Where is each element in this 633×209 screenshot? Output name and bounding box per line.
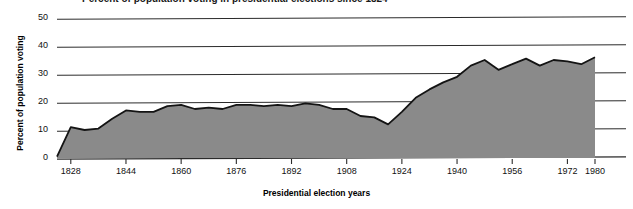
y-tick-0: 0: [26, 152, 48, 162]
chart-figure: Percent of population voting in presiden…: [0, 0, 633, 209]
x-tick-1940: 1940: [437, 166, 477, 176]
y-tick-20: 20: [26, 96, 48, 106]
x-tick-1876: 1876: [216, 166, 256, 176]
x-tick-1908: 1908: [327, 166, 367, 176]
y-tick-30: 30: [26, 68, 48, 78]
y-tick-10: 10: [26, 124, 48, 134]
x-tick-1956: 1956: [492, 166, 532, 176]
chart-plot-area: [0, 0, 633, 209]
x-tick-1892: 1892: [272, 166, 312, 176]
x-tick-1844: 1844: [106, 166, 146, 176]
y-tick-50: 50: [26, 12, 48, 22]
y-tick-40: 40: [26, 40, 48, 50]
x-axis-tick-marks: [71, 159, 595, 164]
x-tick-1980: 1980: [575, 166, 615, 176]
x-tick-1828: 1828: [51, 166, 91, 176]
x-tick-1860: 1860: [161, 166, 201, 176]
x-tick-1924: 1924: [382, 166, 422, 176]
